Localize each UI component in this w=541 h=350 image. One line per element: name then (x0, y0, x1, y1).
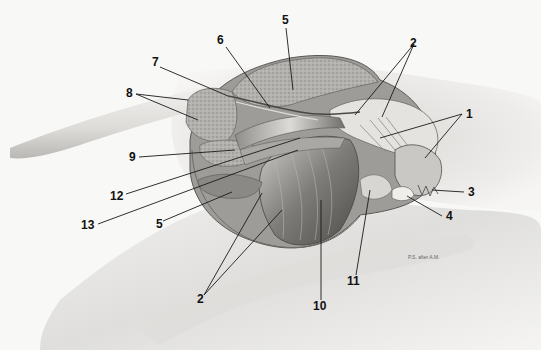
callout-label-12: 12 (110, 189, 124, 203)
callout-label-13: 13 (81, 218, 95, 232)
callout-label-1: 1 (466, 107, 473, 121)
callout-label-7: 7 (152, 55, 159, 69)
callout-label-4: 4 (446, 209, 453, 223)
callout-label-2b: 2 (197, 292, 204, 306)
callout-label-3: 3 (468, 185, 475, 199)
callout-label-9: 9 (129, 150, 136, 164)
callout-label-10: 10 (313, 299, 327, 313)
anatomical-figure: 1223455678912131011 P.S. after A.M. (0, 0, 541, 350)
artist-signature: P.S. after A.M. (408, 254, 440, 260)
callout-label-11: 11 (347, 274, 360, 288)
callout-label-6: 6 (217, 33, 224, 47)
callout-label-2a: 2 (410, 36, 417, 50)
callout-label-5b: 5 (156, 217, 163, 231)
callout-label-8: 8 (126, 86, 133, 100)
callout-label-5a: 5 (282, 13, 289, 27)
illustration-canvas: 1223455678912131011 P.S. after A.M. (0, 0, 541, 350)
